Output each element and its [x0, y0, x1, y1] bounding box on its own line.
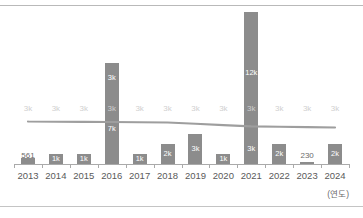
line-value-label-2021: 3k [240, 104, 262, 113]
category-label-2020: 2020 [208, 170, 238, 182]
bar-value-label-2016: 7k [102, 125, 122, 133]
category-label-2021: 2021 [236, 170, 266, 182]
category-label-2015: 2015 [69, 170, 99, 182]
axis-tick [349, 164, 350, 168]
category-label-2019: 2019 [180, 170, 210, 182]
category-label-2022: 2022 [264, 170, 294, 182]
bar-value-label-2024: 2k [325, 150, 345, 158]
axis-tick [42, 164, 43, 168]
axis-tick [154, 164, 155, 168]
top-divider [0, 5, 363, 6]
line-value-label-2019: 3k [184, 104, 206, 113]
category-label-2017: 2017 [125, 170, 155, 182]
line-value-label-2014: 3k [45, 104, 67, 113]
bottom-divider [0, 206, 363, 207]
axis-tick [293, 164, 294, 168]
bar-value-label-2019: 3k [185, 145, 205, 153]
line-value-label-2016: 3k [101, 104, 123, 113]
line-value-label-2015: 3k [73, 104, 95, 113]
axis-tick [98, 164, 99, 168]
line-value-label-2018: 3k [157, 104, 179, 113]
bar-value-label-2015: 1k [74, 155, 94, 163]
line-value-label-2017: 3k [129, 104, 151, 113]
bar-value-label-2023: 230 [297, 152, 317, 160]
axis-tick [237, 164, 238, 168]
bar-value-label-2014: 1k [46, 155, 66, 163]
category-label-2016: 2016 [97, 170, 127, 182]
axis-tick [182, 164, 183, 168]
category-label-2014: 2014 [41, 170, 71, 182]
plot-area: 5611k1k7k3k1k2k3k1k3k12k2k2302k 3k3k3k3k… [14, 12, 349, 164]
axis-tick [126, 164, 127, 168]
line-value-label-2013: 3k [17, 104, 39, 113]
axis-tick [209, 164, 210, 168]
bar-value-label-2022: 2k [269, 150, 289, 158]
bar-upper-value-label-2021: 12k [241, 69, 261, 77]
category-label-2024: 2024 [320, 170, 350, 182]
bar-upper-value-label-2016: 3k [102, 74, 122, 82]
axis-tick [70, 164, 71, 168]
bar-value-label-2021: 3k [241, 145, 261, 153]
line-value-label-2022: 3k [268, 104, 290, 113]
bar-value-label-2020: 1k [213, 155, 233, 163]
category-label-2018: 2018 [153, 170, 183, 182]
category-label-2023: 2023 [292, 170, 322, 182]
line-value-label-2020: 3k [212, 104, 234, 113]
line-value-label-2023: 3k [296, 104, 318, 113]
bar-value-label-2013: 561 [18, 152, 38, 160]
axis-tick [14, 164, 15, 168]
bar-value-label-2017: 1k [130, 155, 150, 163]
chart-screenshot: 5611k1k7k3k1k2k3k1k3k12k2k2302k 3k3k3k3k… [0, 0, 363, 218]
axis-tick [265, 164, 266, 168]
line-value-label-2024: 3k [324, 104, 346, 113]
category-label-2013: 2013 [13, 170, 43, 182]
axis-tick [321, 164, 322, 168]
bar-value-label-2018: 2k [158, 150, 178, 158]
x-axis-title: (연도) [327, 189, 349, 200]
